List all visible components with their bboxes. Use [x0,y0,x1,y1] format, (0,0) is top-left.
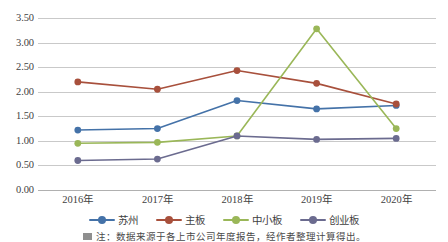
data-point-marker [234,67,241,74]
data-point-marker [393,101,400,108]
legend-swatch-icon [300,215,326,225]
data-point-marker [74,157,81,164]
legend-label: 创业板 [329,215,359,226]
y-axis-tick-label: 0.50 [0,160,34,171]
series-line [78,136,396,161]
data-point-marker [234,97,241,104]
data-point-marker [313,80,320,87]
legend-label: 苏州 [118,215,138,226]
data-point-marker [393,125,400,132]
legend-item-主板[interactable]: 主板 [156,215,205,226]
chart-figure: 0.000.501.001.502.002.503.003.50 2016年20… [0,0,448,242]
series-layer [38,18,436,190]
data-point-marker [74,140,81,147]
x-axis-tick-label: 2018年 [197,194,277,206]
data-point-marker [154,156,161,163]
data-point-marker [154,86,161,93]
legend-dot [98,216,106,224]
data-point-marker [154,139,161,146]
legend-dot [232,216,240,224]
data-point-marker [74,127,81,134]
legend-item-苏州[interactable]: 苏州 [89,215,138,226]
x-axis-tick-label: 2016年 [38,194,118,206]
data-point-marker [313,25,320,32]
legend-label: 主板 [185,215,205,226]
data-point-marker [74,78,81,85]
caption-marker-icon [83,233,92,240]
legend-item-创业板[interactable]: 创业板 [300,215,359,226]
series-line [78,101,396,130]
data-point-marker [234,133,241,140]
legend-dot [309,216,317,224]
y-axis-tick-label: 2.50 [0,62,34,73]
plot-area [38,18,436,190]
legend-swatch-icon [223,215,249,225]
legend-label: 中小板 [252,215,282,226]
legend-swatch-icon [156,215,182,225]
legend-swatch-icon [89,215,115,225]
x-axis-tick-labels: 2016年2017年2018年2019年2020年 [38,194,436,210]
x-axis-tick-label: 2019年 [277,194,357,206]
chart-legend: 苏州主板中小板创业板 [0,212,448,228]
y-axis-tick-label: 1.00 [0,136,34,147]
caption-text: 注：数据来源于各上市公司年度报告，经作者整理计算得出。 [96,232,366,242]
series-创业板 [74,133,399,164]
y-axis-tick-label: 0.00 [0,185,34,196]
y-axis-tick-label: 2.00 [0,87,34,98]
y-axis-tick-label: 3.50 [0,13,34,24]
y-axis-tick-label: 3.00 [0,38,34,49]
gridline [38,190,436,191]
data-point-marker [313,106,320,113]
data-point-marker [393,135,400,142]
legend-item-中小板[interactable]: 中小板 [223,215,282,226]
x-axis-tick-label: 2020年 [356,194,436,206]
series-苏州 [74,97,399,133]
x-axis-tick-label: 2017年 [117,194,197,206]
legend-dot [165,216,173,224]
figure-caption: 注：数据来源于各上市公司年度报告，经作者整理计算得出。 [0,232,448,242]
data-point-marker [154,125,161,132]
y-axis-tick-label: 1.50 [0,111,34,122]
data-point-marker [313,136,320,143]
